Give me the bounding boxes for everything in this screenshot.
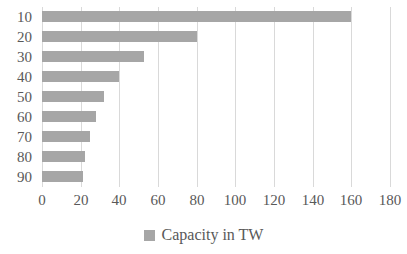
x-tick-label-120: 120 xyxy=(263,190,286,210)
bars xyxy=(42,7,390,187)
x-tick-label-160: 160 xyxy=(340,190,363,210)
x-tick-label-100: 100 xyxy=(224,190,247,210)
x-tick-label-40: 40 xyxy=(112,190,127,210)
y-tick-label-60: 60 xyxy=(0,107,38,127)
bar-20[interactable] xyxy=(42,31,197,42)
x-tick-label-0: 0 xyxy=(38,190,46,210)
legend-label-capacity: Capacity in TW xyxy=(162,226,264,244)
bar-row xyxy=(42,87,390,107)
bar-50[interactable] xyxy=(42,91,104,102)
y-tick-label-70: 70 xyxy=(0,127,38,147)
bar-30[interactable] xyxy=(42,51,144,62)
bar-60[interactable] xyxy=(42,111,96,122)
y-axis: 102030405060708090 xyxy=(0,7,38,187)
bar-90[interactable] xyxy=(42,171,83,182)
y-tick-label-40: 40 xyxy=(0,67,38,87)
bar-row xyxy=(42,127,390,147)
bar-row xyxy=(42,107,390,127)
legend-swatch-capacity xyxy=(144,230,155,241)
bar-70[interactable] xyxy=(42,131,90,142)
y-tick-label-50: 50 xyxy=(0,87,38,107)
x-tick-label-180: 180 xyxy=(379,190,402,210)
x-tick-label-20: 20 xyxy=(74,190,89,210)
gridline-180 xyxy=(390,7,391,187)
bar-row xyxy=(42,67,390,87)
bar-10[interactable] xyxy=(42,11,351,22)
x-tick-label-80: 80 xyxy=(190,190,205,210)
y-tick-label-80: 80 xyxy=(0,147,38,167)
x-tick-label-60: 60 xyxy=(151,190,166,210)
bar-80[interactable] xyxy=(42,151,85,162)
bar-row xyxy=(42,27,390,47)
bar-row xyxy=(42,167,390,187)
bar-row xyxy=(42,7,390,27)
plot-area xyxy=(42,7,390,187)
bar-row xyxy=(42,47,390,67)
y-tick-label-20: 20 xyxy=(0,27,38,47)
bar-40[interactable] xyxy=(42,71,119,82)
y-tick-label-90: 90 xyxy=(0,167,38,187)
x-tick-label-140: 140 xyxy=(302,190,325,210)
y-tick-label-30: 30 xyxy=(0,47,38,67)
bar-row xyxy=(42,147,390,167)
chart-legend: Capacity in TW xyxy=(0,226,407,244)
bar-chart: 102030405060708090 020406080100120140160… xyxy=(0,0,407,254)
x-axis: 020406080100120140160180 xyxy=(42,190,390,210)
y-tick-label-10: 10 xyxy=(0,7,38,27)
